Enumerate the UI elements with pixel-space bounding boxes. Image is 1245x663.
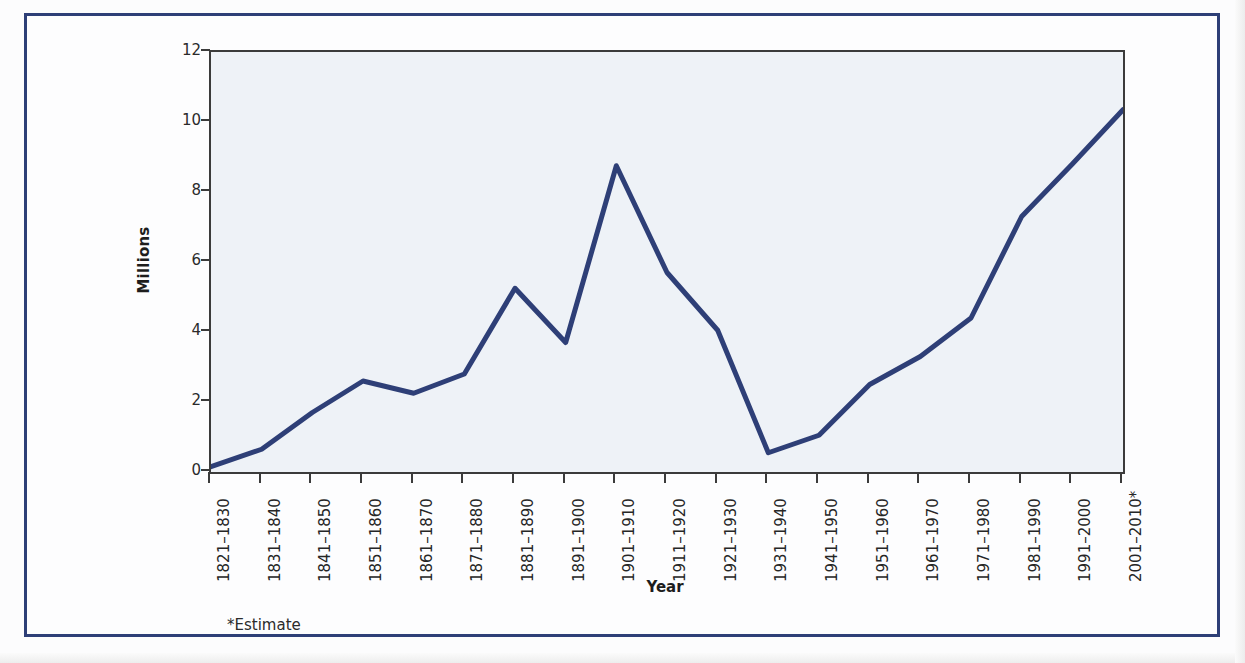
x-tick-label: 1991–2000 [1076, 498, 1094, 582]
x-tick-mark [360, 472, 362, 483]
y-tick-mark [201, 399, 210, 401]
y-tick-label: 8 [191, 181, 201, 199]
x-tick-mark [259, 472, 261, 483]
x-tick-label: 1971–1980 [975, 498, 993, 582]
x-tick-mark [208, 472, 210, 483]
y-tick-mark [201, 259, 210, 261]
x-tick-mark [512, 472, 514, 483]
chart-line-svg [211, 52, 1123, 472]
y-tick-mark [201, 329, 210, 331]
y-tick-label: 10 [182, 111, 201, 129]
x-tick-label: 1921–1930 [722, 498, 740, 582]
x-tick-label: 1961–1970 [924, 498, 942, 582]
x-tick-mark [563, 472, 565, 483]
x-tick-mark [867, 472, 869, 483]
x-tick-mark [715, 472, 717, 483]
x-tick-label: 1871–1880 [468, 498, 486, 582]
x-tick-label: 1881–1890 [519, 498, 537, 582]
figure-frame: Millions 024681012 1821–18301831–1840184… [24, 13, 1220, 637]
y-tick-mark [201, 119, 210, 121]
x-tick-label: 1851–1860 [367, 498, 385, 582]
y-tick-label: 4 [191, 321, 201, 339]
y-tick-label: 0 [191, 461, 201, 479]
y-tick-mark [201, 49, 210, 51]
page-root: Millions 024681012 1821–18301831–1840184… [0, 0, 1245, 663]
x-tick-label: 2001–2010* [1127, 491, 1145, 582]
x-tick-label: 1931–1940 [772, 498, 790, 582]
x-tick-label: 1841–1850 [316, 498, 334, 582]
x-tick-label: 1891–1900 [570, 498, 588, 582]
x-tick-mark [816, 472, 818, 483]
x-tick-label: 1941–1950 [823, 498, 841, 582]
data-series-line [211, 110, 1123, 467]
x-tick-mark [765, 472, 767, 483]
paper-edge-right [1235, 0, 1245, 663]
x-tick-mark [309, 472, 311, 483]
x-tick-label: 1831–1840 [266, 498, 284, 582]
x-tick-mark [1019, 472, 1021, 483]
x-tick-mark [1069, 472, 1071, 483]
x-tick-mark [461, 472, 463, 483]
x-tick-label: 1911–1920 [671, 498, 689, 582]
x-tick-mark [917, 472, 919, 483]
x-tick-label: 1901–1910 [620, 498, 638, 582]
x-tick-label: 1951–1960 [874, 498, 892, 582]
y-tick-mark [201, 189, 210, 191]
y-tick-mark [201, 469, 210, 471]
x-tick-label: 1821–1830 [215, 498, 233, 582]
x-tick-mark [968, 472, 970, 483]
y-axis-tick-labels: 024681012 [169, 50, 201, 470]
paper-edge-bottom [0, 653, 1245, 663]
x-tick-mark [613, 472, 615, 483]
y-tick-label: 12 [182, 41, 201, 59]
x-axis-title: Year [209, 578, 1121, 596]
plot-area [209, 50, 1125, 474]
y-tick-label: 6 [191, 251, 201, 269]
x-tick-mark [664, 472, 666, 483]
y-tick-label: 2 [191, 391, 201, 409]
footnote-estimate: *Estimate [227, 616, 301, 634]
y-axis-title: Millions [135, 50, 155, 470]
x-tick-label: 1981–1990 [1026, 498, 1044, 582]
x-tick-mark [1120, 472, 1122, 483]
x-axis-tick-marks [209, 472, 1121, 484]
x-tick-label: 1861–1870 [418, 498, 436, 582]
x-tick-mark [411, 472, 413, 483]
